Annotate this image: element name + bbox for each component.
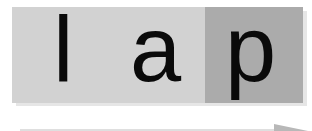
letter-strip: l a p [12, 7, 303, 103]
dark-segment: p [205, 7, 303, 103]
letter-l: l [53, 3, 73, 95]
letter-p: p [225, 3, 276, 95]
arrow-right-icon [20, 124, 308, 131]
letter-a: a [130, 3, 181, 95]
light-segment: l a [12, 7, 205, 103]
